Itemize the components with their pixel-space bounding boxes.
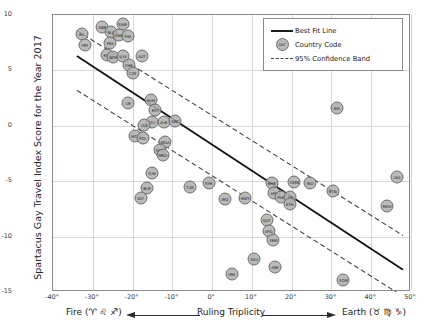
grid-line-vertical <box>212 15 213 290</box>
x-tick-label: -30° <box>77 293 107 301</box>
grid-line-vertical <box>172 15 173 290</box>
x-caption-earth: Earth (♉ ♍ ♑) <box>342 307 406 317</box>
y-tick-label: -5 <box>0 176 12 184</box>
x-tick-label: 10° <box>236 293 266 301</box>
x-tick-label: 20° <box>276 293 306 301</box>
y-tick-label: 10 <box>0 10 12 18</box>
data-point-ind: IND <box>303 177 316 190</box>
data-point-kwt: KWT <box>239 191 252 204</box>
data-point-grc: GRC <box>169 115 182 128</box>
data-point-fin: FIN <box>121 30 134 43</box>
data-point-aut: AUT <box>135 49 148 62</box>
data-point-vat: VAT <box>134 191 147 204</box>
confidence-band-lower <box>77 90 403 292</box>
legend-label: Country Code <box>295 41 342 49</box>
y-tick-label: 5 <box>0 65 12 73</box>
grid-line-horizontal <box>53 126 409 127</box>
data-point-irn: IRN <box>225 268 238 281</box>
grid-line-vertical <box>133 15 134 290</box>
data-point-sau: SAU <box>248 252 261 265</box>
data-point-yem: YEM <box>267 233 280 246</box>
data-point-lie: LIE <box>122 96 135 109</box>
data-point-syr: SYR <box>202 177 215 190</box>
data-point-lva: LVA <box>138 118 151 131</box>
dashed-line-icon <box>269 58 295 59</box>
grid-line-vertical <box>93 15 94 290</box>
x-tick-label: -20° <box>117 293 147 301</box>
best-fit-line <box>77 56 403 270</box>
data-point-tur: TUR <box>183 180 196 193</box>
bubble-icon: ABC <box>269 38 295 51</box>
data-point-tun: TUN <box>145 167 158 180</box>
legend-label: Best Fit Line <box>295 27 337 35</box>
legend-item-best-fit-line: Best Fit Line <box>269 24 397 37</box>
legend-item-country-code: ABC Country Code <box>269 38 397 51</box>
x-tick-label: 40° <box>355 293 385 301</box>
data-point-pol: POL <box>136 131 149 144</box>
y-axis-title: Spartacus Gay Travel Index Score for the… <box>32 33 43 283</box>
chart-legend: Best Fit Line ABC Country Code 95% Confi… <box>263 18 403 71</box>
solid-line-icon <box>269 30 295 32</box>
grid-line-vertical <box>252 15 253 290</box>
scatter-chart: Spartacus Gay Travel Index Score for the… <box>0 0 426 334</box>
x-tick-label: 50° <box>395 293 425 301</box>
grid-line-vertical <box>411 15 412 290</box>
y-tick-label: 0 <box>0 121 12 129</box>
x-axis-captions: Fire (♈ ♌ ♐) Ruling Triplicity Earth (♉ … <box>52 306 410 322</box>
data-point-prt: PRT <box>78 38 91 51</box>
data-point-omn: OMN <box>288 176 301 189</box>
y-tick-label: -15 <box>0 287 12 295</box>
data-point-fra: FRA <box>104 36 117 49</box>
legend-label: 95% Confidence Band <box>295 55 370 63</box>
data-point-mdv: MDV <box>381 199 394 212</box>
data-point-eth: ETH <box>283 198 296 211</box>
direction-arrows <box>126 311 336 320</box>
data-point-npl: NPL <box>331 102 344 115</box>
grid-line-horizontal <box>53 237 409 238</box>
data-point-cze: CZE <box>126 66 139 79</box>
data-point-est: EST <box>149 104 162 117</box>
data-point-som: SOM <box>337 273 350 286</box>
legend-bubble-text: ABC <box>276 38 289 51</box>
data-point-irq: IRQ <box>218 192 231 205</box>
data-point-mkd: MKD <box>156 148 169 161</box>
data-point-btn: BTN <box>326 185 339 198</box>
x-caption-fire: Fire (♈ ♌ ♐) <box>66 307 122 317</box>
legend-item-confidence-band: 95% Confidence Band <box>269 52 397 65</box>
data-point-are: ARE <box>268 260 281 273</box>
grid-line-horizontal <box>53 181 409 182</box>
data-point-lka: LKA <box>391 170 404 183</box>
x-tick-label: 30° <box>315 293 345 301</box>
x-tick-label: -40° <box>37 293 67 301</box>
x-tick-label: -10° <box>156 293 186 301</box>
x-tick-label: 0° <box>196 293 226 301</box>
y-tick-label: -10 <box>0 232 12 240</box>
